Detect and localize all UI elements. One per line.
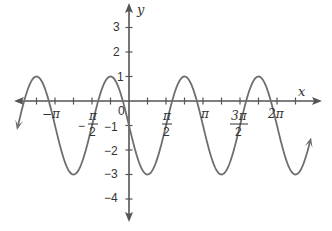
origin-label: 0: [118, 104, 125, 118]
y-axis-label: y: [136, 2, 145, 17]
x-axis: [14, 97, 322, 105]
x-tick-label-three-half-pi: 3π 2: [230, 109, 248, 139]
x-tick-label-neg-half-pi: − π 2: [78, 109, 98, 139]
svg-text:3π: 3π: [231, 109, 248, 123]
svg-text:2: 2: [235, 125, 242, 139]
svg-text:2: 2: [89, 125, 96, 139]
function-graph: y x 0 3 2 1 −1 −2 −3 −4 −π − π 2 π 2 π 3…: [0, 0, 332, 231]
svg-text:−: −: [78, 119, 85, 133]
x-tick-label-neg-pi: −π: [42, 107, 61, 121]
svg-text:2: 2: [163, 125, 170, 139]
x-axis-label: x: [298, 84, 306, 99]
y-tick-label-neg4: −4: [104, 191, 118, 205]
y-tick-label-neg2: −2: [104, 144, 118, 158]
x-tick-label-pi: π: [200, 107, 210, 121]
svg-text:2π: 2π: [267, 107, 285, 121]
svg-text:π: π: [200, 107, 210, 121]
y-tick-label-neg1: −1: [104, 120, 118, 134]
y-tick-label-1: 1: [117, 70, 124, 84]
x-tick-label-half-pi: π 2: [162, 109, 172, 139]
y-tick-label-neg3: −3: [104, 167, 118, 181]
svg-text:−π: −π: [42, 107, 61, 121]
x-tick-label-two-pi: 2π: [267, 107, 285, 121]
y-tick-label-3: 3: [113, 20, 120, 34]
y-tick-label-2: 2: [113, 45, 120, 59]
svg-text:π: π: [88, 109, 98, 123]
svg-text:π: π: [162, 109, 172, 123]
